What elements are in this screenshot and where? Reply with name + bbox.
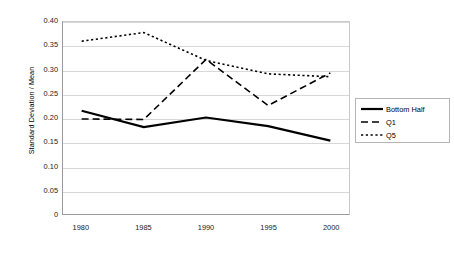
x-axis-tick-label: 1985 (123, 223, 163, 232)
legend-swatch-icon (360, 104, 384, 114)
x-axis-tick-label: 1995 (249, 223, 289, 232)
legend-item-q1[interactable]: Q1 (360, 116, 445, 128)
legend-item-label: Q5 (384, 131, 396, 140)
series-layer (63, 22, 349, 214)
legend-item-bottom-half[interactable]: Bottom Half (360, 103, 445, 115)
y-axis-tick-labels: 0.400.350.300.250.200.150.100.050 (20, 21, 58, 215)
y-axis-tick-label: 0.30 (24, 66, 58, 74)
series-line-q5 (82, 33, 331, 77)
x-axis-tick-label: 2000 (311, 223, 351, 232)
legend-item-q5[interactable]: Q5 (360, 129, 445, 141)
plot-area (62, 21, 350, 215)
y-axis-tick-label: 0.15 (24, 138, 58, 146)
y-axis-tick-label: 0.40 (24, 17, 58, 25)
legend-swatch-icon (360, 117, 384, 127)
legend-swatch-icon (360, 130, 384, 140)
y-axis-tick-label: 0.35 (24, 41, 58, 49)
y-axis-tick-label: 0.10 (24, 163, 58, 171)
series-line-bottom-half (82, 111, 331, 141)
legend-item-label: Q1 (384, 118, 396, 127)
line-chart: Standard Deviation / Mean 0.400.350.300.… (0, 0, 454, 254)
y-axis-tick-label: 0.05 (24, 187, 58, 195)
y-axis-tick-label: 0 (24, 211, 58, 219)
x-axis-tick-labels: 19801985199019952000 (62, 219, 350, 235)
legend-item-label: Bottom Half (384, 105, 425, 114)
x-axis-tick-label: 1990 (186, 223, 226, 232)
chart-legend: Bottom HalfQ1Q5 (355, 98, 450, 143)
y-axis-tick-label: 0.25 (24, 90, 58, 98)
x-axis-tick-label: 1980 (61, 223, 101, 232)
y-axis-tick-label: 0.20 (24, 114, 58, 122)
series-line-q1 (82, 59, 331, 119)
